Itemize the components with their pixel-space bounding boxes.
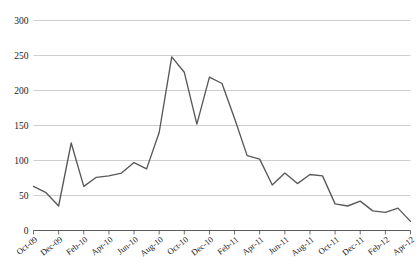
line-chart: 050100150200250300 Oct-09Dec-09Feb-10Apr… xyxy=(0,0,420,280)
y-axis-tick-label: 100 xyxy=(14,156,29,166)
y-axis-tick-label: 250 xyxy=(14,51,29,61)
y-axis-tick-label: 50 xyxy=(19,191,29,201)
chart-canvas: 050100150200250300 Oct-09Dec-09Feb-10Apr… xyxy=(0,0,420,280)
y-axis-tick-label: 0 xyxy=(24,226,29,236)
y-axis-tick-label: 150 xyxy=(14,121,29,131)
y-axis-tick-label: 300 xyxy=(14,16,29,26)
y-axis-tick-label: 200 xyxy=(14,86,29,96)
